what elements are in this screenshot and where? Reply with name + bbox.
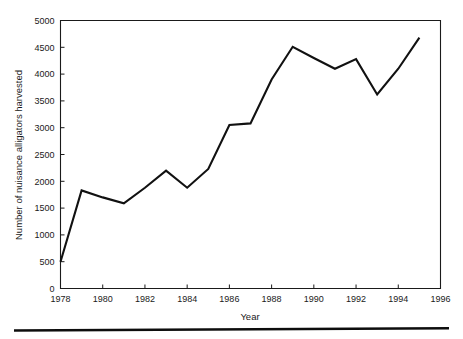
data-series-line — [61, 38, 420, 262]
plot-border — [61, 21, 441, 289]
chart-figure: 0500100015002000250030003500400045005000… — [0, 0, 463, 339]
x-tick-label: 1978 — [50, 294, 70, 304]
y-tick-label: 1500 — [34, 203, 54, 213]
x-axis-ticks — [61, 285, 441, 289]
y-tick-label: 2500 — [34, 150, 54, 160]
axis-frame — [61, 21, 441, 289]
x-tick-label: 1988 — [262, 294, 282, 304]
x-tick-label: 1984 — [177, 294, 197, 304]
x-tick-label: 1994 — [388, 294, 408, 304]
y-tick-label: 4000 — [34, 69, 54, 79]
y-tick-label: 3500 — [34, 96, 54, 106]
y-tick-label: 2000 — [34, 177, 54, 187]
y-tick-label: 500 — [39, 257, 54, 267]
y-tick-label: 3000 — [34, 123, 54, 133]
y-axis-tick-labels: 0500100015002000250030003500400045005000 — [34, 16, 54, 294]
x-tick-label: 1996 — [430, 294, 450, 304]
x-tick-label: 1992 — [346, 294, 366, 304]
y-tick-label: 1000 — [34, 230, 54, 240]
y-tick-label: 5000 — [34, 16, 54, 26]
x-tick-label: 1982 — [135, 294, 155, 304]
x-tick-label: 1990 — [304, 294, 324, 304]
footer-rule — [14, 328, 449, 330]
x-axis-tick-labels: 1978198019821984198619881990199219941996 — [50, 294, 450, 304]
x-tick-label: 1980 — [93, 294, 113, 304]
line-chart-svg: 0500100015002000250030003500400045005000… — [0, 0, 463, 339]
x-tick-label: 1986 — [219, 294, 239, 304]
y-tick-label: 4500 — [34, 43, 54, 53]
y-tick-label: 0 — [49, 284, 54, 294]
y-axis-title: Number of nuisance alligators harvested — [13, 70, 24, 240]
x-axis-title: Year — [240, 311, 259, 322]
